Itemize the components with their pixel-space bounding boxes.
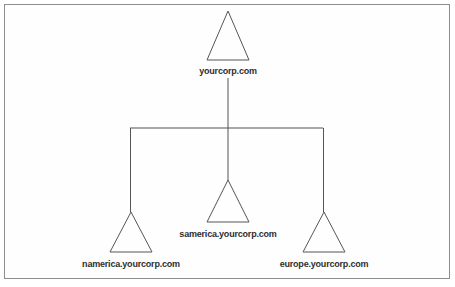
node-label-root: yourcorp.com [199, 66, 257, 76]
node-triangle-europe[interactable] [303, 212, 345, 252]
node-triangle-samerica[interactable] [207, 180, 249, 222]
node-triangle-root[interactable] [207, 11, 249, 60]
node-label-samerica: samerica.yourcorp.com [179, 229, 276, 239]
node-label-europe: europe.yourcorp.com [280, 259, 369, 269]
node-label-namerica: namerica.yourcorp.com [82, 259, 180, 269]
diagram-graphics [0, 0, 455, 287]
node-triangle-namerica[interactable] [110, 212, 152, 252]
diagram-canvas: yourcorp.com namerica.yourcorp.com samer… [0, 0, 455, 287]
